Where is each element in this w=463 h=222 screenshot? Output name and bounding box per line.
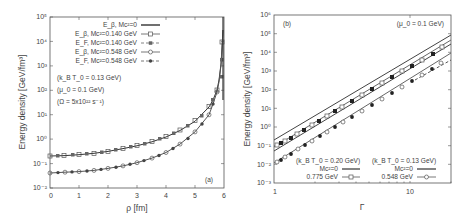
x-tick-labels-a: 0 1 2 3 4 5 6 [49,192,226,199]
y-axis-label-a: Energy density [GeV/fm³] [17,55,27,150]
svg-text:Mc²=0: Mc²=0 [319,165,338,172]
svg-text:5: 5 [193,192,197,199]
y-tick-labels-a: 10⁻² 10⁻¹ 10⁰ 10¹ 10² 10³ 10⁴ 10⁵ [33,13,48,191]
svg-text:(μ_0 = 0.1 GeV): (μ_0 = 0.1 GeV) [57,86,104,94]
x-axis-label-b: Γ [360,202,365,212]
svg-text:10¹: 10¹ [37,111,48,118]
svg-text:0.548 GeV: 0.548 GeV [381,173,413,180]
svg-text:6: 6 [222,192,226,199]
svg-text:10⁵: 10⁵ [36,13,47,20]
svg-text:10⁻²: 10⁻² [33,184,48,191]
svg-text:10: 10 [406,188,414,195]
figure: 10⁻² 10⁻¹ 10⁰ 10¹ 10² 10³ 10⁴ 10⁵ 0 1 2 … [0,0,463,222]
y-axis-label-b: Energy density [GeV/fm³] [242,52,252,147]
svg-text:10²: 10² [261,86,272,93]
svg-text:Mc²=0: Mc²=0 [394,165,413,172]
panel-a: 10⁻² 10⁻¹ 10⁰ 10¹ 10² 10³ 10⁴ 10⁵ 0 1 2 … [17,13,226,213]
svg-text:(k_B T_0 = 0.20 GeV): (k_B T_0 = 0.20 GeV) [296,157,360,165]
legend-b: (k_B T_0 = 0.20 GeV) Mc²=0 0.775 GeV (k_… [292,157,448,181]
x-tick-labels-b: 1 10 [273,188,414,195]
x-axis-label-a: ρ [fm] [126,203,147,213]
svg-text:10⁻³: 10⁻³ [257,179,272,186]
svg-text:(Ω = 5x10²² s⁻¹): (Ω = 5x10²² s⁻¹) [57,98,104,106]
markers-open-circle-b [275,61,443,164]
svg-text:0: 0 [49,192,53,199]
panel-tag-b: (b) [283,20,291,28]
params-a: (k_B T_0 = 0.13 GeV) (μ_0 = 0.1 GeV) (Ω … [57,74,121,106]
svg-text:E_F, Mc²=0.548 GeV: E_F, Mc²=0.548 GeV [76,57,138,65]
svg-text:4: 4 [164,192,168,199]
svg-text:10³: 10³ [37,62,48,69]
panel-b: 10⁻³ 10⁻² 10⁻¹ 10⁰ 10¹ 10² 10³ 10⁴ 10⁵ 1… [242,11,451,212]
svg-text:10¹: 10¹ [261,105,272,112]
markers-filled-circle-b [279,67,434,162]
svg-text:10⁰: 10⁰ [260,123,271,130]
svg-text:E_β, Mc²=0: E_β, Mc²=0 [103,21,137,29]
svg-text:E_β, Mc²=0.548 GeV: E_β, Mc²=0.548 GeV [75,48,137,56]
svg-text:E_β, Mc²=0.140 GeV: E_β, Mc²=0.140 GeV [75,30,137,38]
svg-text:10³: 10³ [261,67,272,74]
svg-text:(k_B T_0 = 0.13 GeV): (k_B T_0 = 0.13 GeV) [57,74,121,82]
curves-b [274,35,451,163]
svg-text:10⁻²: 10⁻² [257,161,272,168]
legend-a: E_β, Mc²=0 E_β, Mc²=0.140 GeV E_F, Mc²=0… [75,21,160,65]
markers-filled-square-b [279,52,435,145]
svg-text:10⁴: 10⁴ [260,49,271,56]
annotation-mu0-b: (μ_0 = 0.1 GeV) [397,20,444,28]
svg-text:10⁻¹: 10⁻¹ [257,142,272,149]
svg-text:10²: 10² [37,86,48,93]
svg-text:10⁻¹: 10⁻¹ [33,160,48,167]
svg-text:2: 2 [106,192,110,199]
svg-text:3: 3 [135,192,139,199]
markers-open-square-b [275,45,444,147]
y-tick-labels-b: 10⁻³ 10⁻² 10⁻¹ 10⁰ 10¹ 10² 10³ 10⁴ 10⁵ 1… [257,11,272,186]
svg-text:10⁰: 10⁰ [36,135,47,142]
panel-tag-a: (a) [205,176,213,184]
svg-text:1: 1 [77,192,81,199]
svg-text:10⁴: 10⁴ [36,38,47,45]
svg-text:E_F, Mc²=0.140 GeV: E_F, Mc²=0.140 GeV [76,39,138,47]
svg-text:(k_B T_0 = 0.13 GeV): (k_B T_0 = 0.13 GeV) [372,157,436,165]
svg-text:10⁶: 10⁶ [260,11,271,18]
svg-text:0.775 GeV: 0.775 GeV [306,173,338,180]
svg-text:1: 1 [273,188,277,195]
markers-filled-square-a [56,58,224,158]
svg-text:10⁵: 10⁵ [260,30,271,37]
